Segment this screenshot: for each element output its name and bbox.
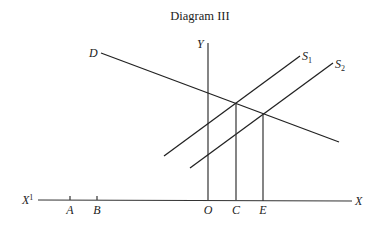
label-a: A [65,203,74,217]
label-o: O [204,203,213,217]
label-c: C [232,203,241,217]
supply1-line [164,56,300,156]
demand-line [101,53,339,142]
label-x: X [354,194,363,208]
label-y: Y [197,37,205,51]
label-e: E [258,203,267,217]
label-s1: S1 [302,49,312,65]
label-x-neg: X1 [21,193,33,207]
label-b: B [93,203,101,217]
label-d: D [88,46,98,60]
label-s2: S2 [335,57,345,73]
supply2-line [190,63,333,168]
x-axis [38,200,352,201]
diagram-canvas: Diagram III Y D S1 S2 X1 X A B O C E [0,0,383,227]
diagram-title: Diagram III [170,9,229,23]
